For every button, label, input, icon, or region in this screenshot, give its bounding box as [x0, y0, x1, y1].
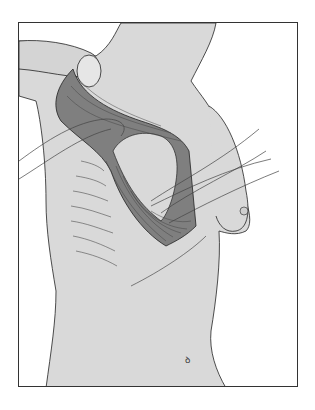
- illustration-frame: ꝺ: [18, 22, 298, 387]
- nipple: [240, 207, 248, 215]
- anatomy-illustration: ꝺ: [19, 23, 298, 387]
- navel: ꝺ: [185, 355, 190, 365]
- humeral-head: [77, 55, 101, 87]
